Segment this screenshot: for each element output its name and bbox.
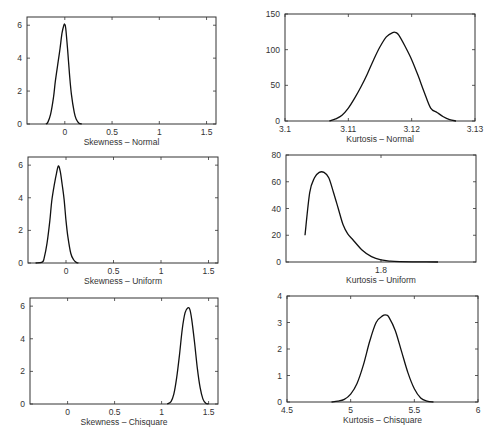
x-tick-label: 1.8	[375, 265, 387, 275]
axes-frame	[30, 298, 218, 404]
x-axis-ticks: 3.13.113.123.13	[279, 14, 483, 134]
x-tick-label: 0.5	[108, 266, 120, 276]
y-tick-label: 0	[276, 257, 281, 267]
x-tick-label: 4.5	[281, 405, 293, 415]
y-tick-label: 4	[17, 53, 22, 63]
x-axis-label: Skewness – Uniform	[84, 276, 162, 286]
density-curve	[36, 166, 79, 263]
x-tick-label: 1.5	[203, 407, 215, 417]
y-axis-ticks: 0246	[18, 160, 218, 268]
y-tick-label: 60	[272, 177, 282, 187]
x-tick-label: 0	[62, 127, 67, 137]
x-axis-ticks: 00.511.5	[62, 17, 212, 137]
x-axis-ticks: 00.511.5	[65, 298, 215, 417]
y-tick-label: 3	[277, 318, 282, 328]
y-tick-label: 50	[271, 80, 281, 90]
x-axis-label: Kurtosis – Normal	[346, 134, 414, 144]
x-tick-label: 1	[159, 266, 164, 276]
x-tick-label: 6	[476, 405, 481, 415]
y-tick-label: 4	[20, 334, 25, 344]
y-tick-label: 2	[17, 86, 22, 96]
y-tick-label: 2	[20, 366, 25, 376]
x-tick-label: 1.5	[203, 266, 215, 276]
density-curve	[329, 32, 456, 121]
x-tick-label: 0	[65, 407, 70, 417]
y-tick-label: 0	[20, 399, 25, 409]
x-axis-label: Skewness – Chisquare	[81, 417, 168, 427]
x-tick-label: 3.13	[467, 124, 484, 134]
x-tick-label: 0	[64, 266, 69, 276]
y-tick-label: 2	[277, 344, 282, 354]
axes-frame	[286, 155, 476, 262]
x-tick-label: 0.5	[106, 127, 118, 137]
subplot-skewness-normal: 0246 00.511.5 Skewness – Normal	[17, 17, 216, 147]
subplot-kurtosis-uniform: 020406080 1.8 Kurtosis – Uniform	[272, 150, 476, 285]
axes-frame	[27, 17, 216, 124]
x-tick-label: 3.11	[340, 124, 356, 134]
x-tick-label: 3.12	[403, 124, 420, 134]
x-tick-label: 3.1	[279, 124, 291, 134]
density-curve	[167, 308, 208, 404]
x-tick-label: 1	[159, 407, 164, 417]
y-axis-ticks: 01234	[277, 291, 478, 407]
y-tick-label: 100	[266, 45, 280, 55]
x-axis-ticks: 1.8	[375, 155, 387, 275]
y-tick-label: 20	[272, 230, 282, 240]
y-tick-label: 6	[17, 20, 22, 30]
x-axis-label: Kurtosis – Uniform	[346, 275, 416, 285]
y-tick-label: 4	[277, 291, 282, 301]
y-axis-ticks: 0246	[20, 301, 218, 409]
y-tick-label: 0	[17, 119, 22, 129]
axes-frame	[285, 14, 475, 121]
y-tick-label: 0	[18, 258, 23, 268]
figure: 0246 00.511.5 Skewness – Normal 05010015…	[0, 0, 494, 443]
density-curve	[332, 315, 434, 402]
y-tick-label: 80	[272, 150, 282, 160]
subplot-skewness-uniform: 0246 00.511.5 Skewness – Uniform	[18, 157, 218, 286]
x-axis-ticks: 4.555.56	[281, 296, 481, 415]
y-axis-ticks: 0246	[17, 20, 216, 129]
density-curve	[305, 172, 438, 262]
y-axis-ticks: 020406080	[272, 150, 476, 267]
x-axis-label: Kurtosis – Chisquare	[343, 415, 422, 425]
density-curve	[46, 24, 82, 124]
y-tick-label: 150	[266, 9, 280, 19]
x-tick-label: 1	[157, 127, 162, 137]
x-axis-ticks: 00.511.5	[64, 157, 215, 276]
y-tick-label: 6	[20, 301, 25, 311]
x-tick-label: 5.5	[408, 405, 420, 415]
x-axis-label: Skewness – Normal	[84, 137, 160, 147]
y-tick-label: 4	[18, 193, 23, 203]
subplot-skewness-chisquare: 0246 00.511.5 Skewness – Chisquare	[20, 298, 218, 427]
x-tick-label: 0.5	[109, 407, 121, 417]
subplot-kurtosis-normal: 050100150 3.13.113.123.13 Kurtosis – Nor…	[266, 9, 484, 144]
y-tick-label: 1	[277, 371, 282, 381]
y-tick-label: 2	[18, 225, 23, 235]
y-tick-label: 6	[18, 160, 23, 170]
subplot-kurtosis-chisquare: 01234 4.555.56 Kurtosis – Chisquare	[277, 291, 480, 425]
axes-frame	[287, 296, 478, 402]
x-tick-label: 5	[348, 405, 353, 415]
x-tick-label: 1.5	[201, 127, 213, 137]
y-tick-label: 40	[272, 204, 282, 214]
